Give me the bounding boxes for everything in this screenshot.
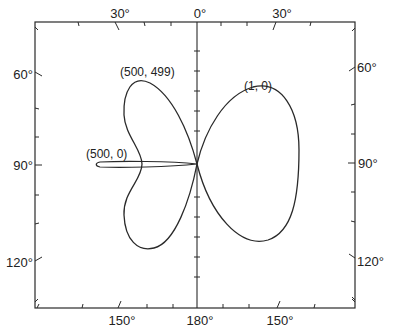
right-angle-labels: 60° 90° 120° <box>357 60 384 269</box>
curve-label-500-0: (500, 0) <box>86 147 127 161</box>
left-label-120: 120° <box>6 255 33 270</box>
frame-ticks <box>35 22 355 308</box>
top-label-center: 0° <box>194 6 206 21</box>
left-angle-labels: 60° 90° 120° <box>6 67 33 270</box>
polar-pattern-diagram: 30° 0° 30° 150° 180° 150° 60° 90° 120° 6… <box>0 0 394 330</box>
top-label-left: 30° <box>110 6 130 21</box>
bottom-label-right: 150° <box>267 313 294 328</box>
curve-500-0 <box>96 161 197 167</box>
left-label-90: 90° <box>13 158 33 173</box>
top-label-right: 30° <box>272 6 292 21</box>
curve-1-0 <box>197 86 299 241</box>
right-label-60: 60° <box>357 60 377 75</box>
top-angle-labels: 30° 0° 30° <box>110 6 292 21</box>
curve-label-1-0: (1, 0) <box>244 79 272 93</box>
bottom-angle-labels: 150° 180° 150° <box>109 313 294 328</box>
right-label-120: 120° <box>357 254 384 269</box>
bottom-label-center: 180° <box>187 313 214 328</box>
right-label-90: 90° <box>358 156 378 171</box>
curve-label-500-499: (500, 499) <box>120 65 175 79</box>
left-label-60: 60° <box>13 67 33 82</box>
bottom-label-left: 150° <box>109 313 136 328</box>
plot-frame <box>35 22 355 308</box>
